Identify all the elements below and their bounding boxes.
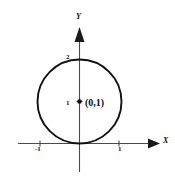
y-axis-arrowhead [75,27,85,42]
y-tick-label-2: 2 [66,54,70,61]
x-axis-label: X [163,137,168,145]
center-point-dot [77,99,82,104]
x-tick-label-1: 1 [118,146,122,153]
center-point-label: (0,1) [85,98,104,108]
circle-diagram-figure: Y X 2 1 -1 1 (0,1) [0,0,175,181]
x-axis-arrowhead [148,139,160,149]
y-tick-label-1: 1 [66,100,70,107]
x-tick-label-minus-1: -1 [35,146,41,153]
y-axis-label: Y [76,13,81,21]
coordinate-plane-svg [0,0,175,181]
